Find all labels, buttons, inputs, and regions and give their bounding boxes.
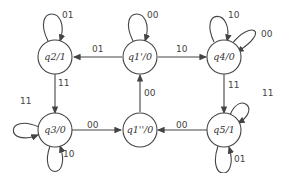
edge-label: 10 [176,44,188,54]
loop-q1p-00 [128,14,147,41]
edge-label: 11 [20,96,31,106]
edge-label: 01 [234,154,245,164]
state-label-q4: q4/0 [213,51,234,62]
edge-label: 00 [144,88,156,98]
loop-q2-01 [43,14,62,41]
state-label-q5: q5/1 [213,124,234,135]
edge-label: 00 [176,120,188,130]
edge-label: 10 [63,149,75,159]
loop-q4-10 [210,16,228,42]
state-diagram: q2/1 q1'/0 q4/0 q3/0 q1''/0 q5/1 01 00 1… [0,0,283,173]
state-label-q2: q2/1 [44,51,65,62]
edge-label: 10 [228,10,240,20]
edge-label: 00 [87,120,99,130]
edge-label: 11 [228,80,239,90]
loop-q3-10 [47,146,62,172]
loop-q5-01 [215,146,231,173]
state-label-q3: q3/0 [44,124,65,135]
edge-label: 11 [58,78,69,88]
edge-label: 00 [261,29,273,39]
state-label-q1pp: q1''/0 [127,124,154,135]
state-label-q1p: q1'/0 [128,51,152,62]
loop-q3-11 [13,123,39,138]
edge-label: 01 [62,10,73,20]
edge-label: 01 [92,44,103,54]
edge-label: 00 [147,10,159,20]
edge-label: 11 [262,88,273,98]
